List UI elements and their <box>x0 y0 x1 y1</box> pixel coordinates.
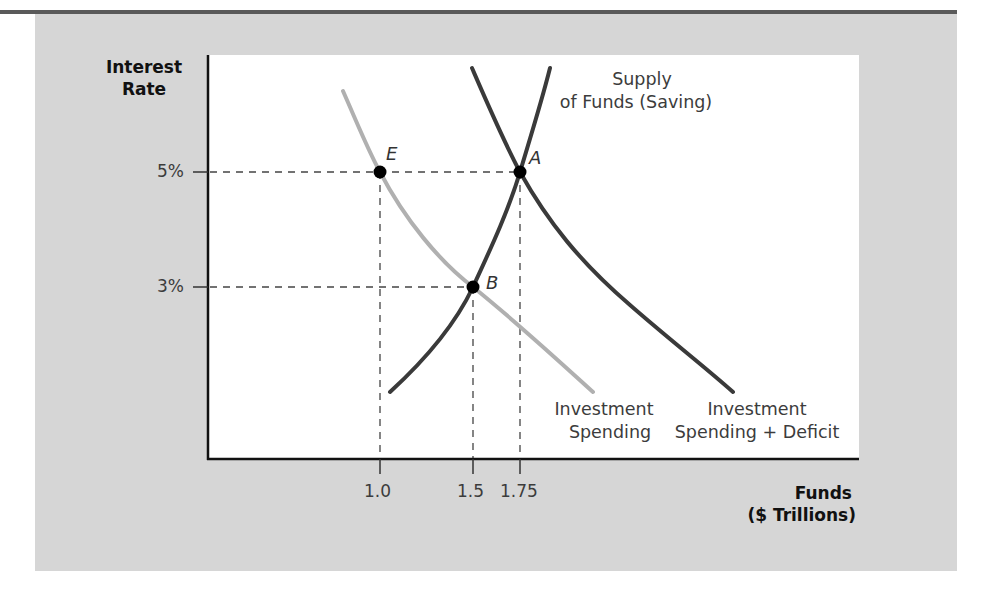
x-tick-label-1: 1.0 <box>364 481 391 501</box>
supply-label-line1: Supply <box>550 68 722 91</box>
point-b-label: B <box>486 272 498 293</box>
investment-spending-label: Investment Spending <box>545 398 663 444</box>
y-axis-label-line2: Rate <box>96 78 192 100</box>
investment-label-line1: Investment <box>545 398 663 421</box>
point-e-label: E <box>386 143 397 164</box>
point-a-label: A <box>529 147 541 168</box>
x-axis-label: Funds ($ Trillions) <box>720 482 856 526</box>
point-a-marker <box>514 166 527 179</box>
point-b-marker <box>467 281 480 294</box>
investment-deficit-curve <box>472 68 733 392</box>
x-tick-label-15: 1.5 <box>457 481 484 501</box>
guide-lines <box>210 172 520 459</box>
x-axis-label-line2: ($ Trillions) <box>720 504 856 526</box>
supply-curve <box>390 68 550 392</box>
y-axis-label: Interest Rate <box>96 56 192 100</box>
ticks <box>193 172 520 474</box>
supply-label-line2: of Funds (Saving) <box>550 91 722 114</box>
deficit-label-line2: Spending + Deficit <box>662 421 852 444</box>
supply-curve-label: Supply of Funds (Saving) <box>550 68 722 114</box>
investment-deficit-label: Investment Spending + Deficit <box>662 398 852 444</box>
point-e-marker <box>374 166 387 179</box>
y-tick-label-5: 5% <box>124 161 184 181</box>
x-axis-label-line1: Funds <box>720 482 856 504</box>
x-tick-label-175: 1.75 <box>500 481 538 501</box>
investment-label-line2: Spending <box>545 421 663 444</box>
y-tick-label-3: 3% <box>124 276 184 296</box>
deficit-label-line1: Investment <box>662 398 852 421</box>
y-axis-label-line1: Interest <box>96 56 192 78</box>
